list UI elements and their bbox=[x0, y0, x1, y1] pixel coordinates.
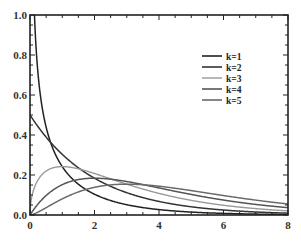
legend: k=1k=2k=3k=4k=5 bbox=[202, 52, 242, 106]
legend-label: k=3 bbox=[226, 74, 242, 84]
legend-item-k4: k=4 bbox=[202, 85, 242, 95]
legend-item-k3: k=3 bbox=[202, 74, 242, 84]
curve-k2 bbox=[30, 115, 288, 213]
legend-label: k=1 bbox=[226, 52, 242, 62]
x-tick-label: 4 bbox=[156, 219, 162, 231]
legend-label: k=2 bbox=[226, 63, 242, 73]
y-tick-label: 0.2 bbox=[13, 169, 27, 181]
y-tick-label: 0.8 bbox=[13, 49, 27, 61]
legend-label: k=4 bbox=[226, 85, 242, 95]
x-tick-label: 2 bbox=[92, 219, 98, 231]
legend-item-k2: k=2 bbox=[202, 63, 242, 73]
y-tick-label: 0.6 bbox=[13, 89, 27, 101]
legend-item-k1: k=1 bbox=[202, 52, 242, 62]
x-axis-tick-labels: 02468 bbox=[27, 219, 291, 231]
x-tick-label: 6 bbox=[221, 219, 227, 231]
legend-item-k5: k=5 bbox=[202, 96, 242, 106]
x-tick-label: 8 bbox=[285, 219, 291, 231]
plot-frame bbox=[30, 15, 288, 215]
legend-label: k=5 bbox=[226, 96, 242, 106]
y-tick-label: 1.0 bbox=[13, 9, 27, 21]
y-axis-tick-labels: 0.00.20.40.60.81.0 bbox=[13, 9, 27, 221]
x-tick-label: 0 bbox=[27, 219, 33, 231]
curve-k3 bbox=[30, 167, 288, 215]
axis-ticks bbox=[30, 15, 288, 215]
y-tick-label: 0.4 bbox=[13, 129, 27, 141]
y-tick-label: 0.0 bbox=[13, 209, 27, 221]
chi-square-chart: 0.00.20.40.60.81.0 02468 k=1k=2k=3k=4k=5 bbox=[0, 0, 301, 241]
plot-curves bbox=[30, 0, 288, 215]
